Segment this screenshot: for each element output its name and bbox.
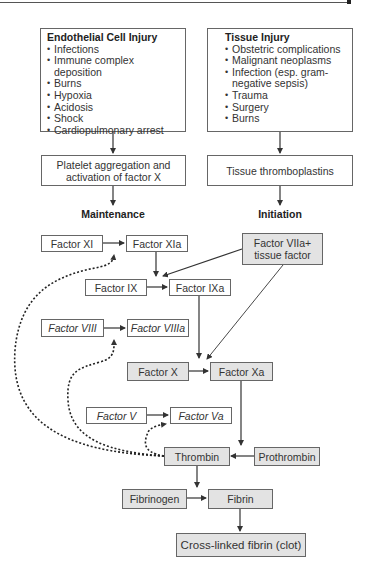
list-item: Infection (esp. gram-negative sepsis) bbox=[225, 67, 346, 90]
thrombin-box: Thrombin bbox=[164, 447, 230, 466]
factor-viii-box: Factor VIII bbox=[41, 319, 104, 337]
factor-viiia-box: Factor VIIIa bbox=[127, 319, 189, 337]
endothelial-injury-list: Infections Immune complex deposition Bur… bbox=[47, 44, 179, 137]
fibrinogen-box: Fibrinogen bbox=[122, 489, 187, 509]
tissue-injury-list: Obstetric complications Malignant neopla… bbox=[225, 44, 346, 125]
factor-v-box: Factor V bbox=[86, 407, 147, 424]
tissue-injury-box: Tissue Injury Obstetric complications Ma… bbox=[207, 28, 353, 132]
factor-va-box: Factor Va bbox=[170, 407, 232, 424]
factor-xia-box: Factor XIa bbox=[126, 235, 188, 252]
factor-ix-box: Factor IX bbox=[85, 279, 147, 296]
list-item: Trauma bbox=[225, 90, 346, 102]
maintenance-label: Maintenance bbox=[63, 208, 163, 220]
platelet-aggregation-box: Platelet aggregation and activation of f… bbox=[41, 155, 186, 186]
endothelial-injury-title: Endothelial Cell Injury bbox=[47, 32, 179, 44]
tissue-injury-title: Tissue Injury bbox=[225, 32, 346, 44]
tissue-thromboplastins-box: Tissue thromboplastins bbox=[207, 155, 353, 186]
factor-xa-box: Factor Xa bbox=[210, 362, 273, 381]
list-item: Cardiopulmonary arrest bbox=[47, 125, 179, 137]
factor-viia-tissue-factor-box: Factor VIIa+ tissue factor bbox=[242, 233, 323, 265]
list-item: Hypoxia bbox=[47, 90, 179, 102]
initiation-label: Initiation bbox=[230, 208, 330, 220]
factor-x-box: Factor X bbox=[127, 362, 189, 381]
fibrin-box: Fibrin bbox=[208, 489, 273, 509]
endothelial-injury-box: Endothelial Cell Injury Infections Immun… bbox=[40, 28, 186, 132]
list-item: Shock bbox=[47, 113, 179, 125]
factor-xi-box: Factor XI bbox=[41, 235, 103, 252]
list-item: Immune complex deposition bbox=[47, 55, 179, 78]
prothrombin-box: Prothrombin bbox=[254, 447, 320, 466]
cross-linked-fibrin-box: Cross-linked fibrin (clot) bbox=[176, 533, 306, 557]
list-item: Burns bbox=[225, 113, 346, 125]
factor-ixa-box: Factor IXa bbox=[169, 279, 231, 296]
